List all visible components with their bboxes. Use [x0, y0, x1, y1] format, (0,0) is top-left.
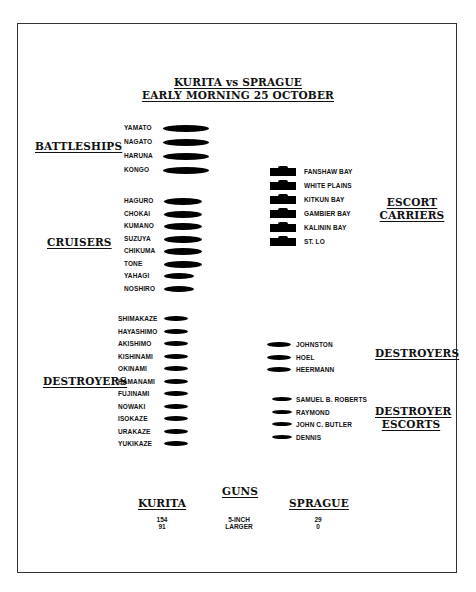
ship-name: YUKIKAZE	[118, 440, 152, 447]
ship-silhouette-icon	[164, 329, 188, 334]
ship-name: KUMANO	[124, 222, 154, 229]
ship-name: NOWAKI	[118, 403, 145, 410]
ship-name: NOSHIRO	[124, 285, 155, 292]
title-line-1: KURITA vs SPRAGUE	[0, 76, 476, 88]
ship-name: CHIKUMA	[124, 247, 155, 254]
ship-name: SUZUYA	[124, 235, 151, 242]
ship-silhouette-icon	[164, 286, 194, 292]
ship-silhouette-icon	[164, 404, 188, 409]
ship-silhouette-icon	[164, 316, 188, 321]
ship-name: AKISHIMO	[118, 340, 151, 347]
ship-name: WHITE PLAINS	[304, 182, 352, 189]
ship-name: ISOKAZE	[118, 415, 148, 422]
category-destroyer-escorts-line1: DESTROYER	[375, 405, 447, 418]
carrier-silhouette-icon	[270, 196, 296, 204]
ship-name: SAMUEL B. ROBERTS	[296, 396, 367, 403]
category-destroyer-escorts: DESTROYER ESCORTS	[375, 405, 447, 431]
ship-silhouette-icon	[272, 410, 292, 414]
guns-type-larger: LARGER	[214, 523, 264, 531]
ship-name: JOHN C. BUTLER	[296, 421, 352, 428]
ship-silhouette-icon	[164, 198, 202, 205]
ship-name: SHIMAKAZE	[118, 315, 158, 322]
ship-silhouette-icon	[164, 211, 202, 218]
ship-silhouette-icon	[164, 273, 194, 279]
ship-name: GAMBIER BAY	[304, 210, 351, 217]
ship-silhouette-icon	[164, 391, 188, 396]
category-destroyer-escorts-line2: ESCORTS	[375, 418, 447, 431]
ship-name: TONE	[124, 260, 142, 267]
ship-silhouette-icon	[164, 248, 202, 255]
guns-kurita-header: KURITA	[138, 497, 186, 510]
ship-silhouette-icon	[164, 441, 188, 446]
ship-silhouette-icon	[164, 223, 202, 230]
ship-silhouette-icon	[272, 422, 292, 426]
ship-name: HAYASHIMO	[118, 328, 157, 335]
ship-silhouette-icon	[164, 354, 188, 359]
category-destroyers-japanese: DESTROYERS	[43, 375, 127, 388]
ship-name: HARUNA	[124, 152, 153, 159]
title-line-2: EARLY MORNING 25 OCTOBER	[0, 89, 476, 101]
category-destroyers-american: DESTROYERS	[375, 347, 459, 360]
carrier-silhouette-icon	[270, 224, 296, 232]
ship-silhouette-icon	[267, 367, 291, 372]
guns-sprague-larger: 0	[293, 523, 343, 531]
ship-name: YAMATO	[124, 124, 152, 131]
ship-name: RAYMOND	[296, 409, 330, 416]
ship-silhouette-icon	[272, 435, 292, 439]
ship-silhouette-icon	[163, 167, 209, 174]
ship-name: KONGO	[124, 166, 149, 173]
ship-silhouette-icon	[163, 125, 209, 132]
category-escort-carriers: ESCORT CARRIERS	[378, 196, 446, 222]
ship-name: HAMANAMI	[118, 378, 155, 385]
ship-name: URAKAZE	[118, 428, 150, 435]
ship-name: YAHAGI	[124, 272, 149, 279]
ship-name: DENNIS	[296, 434, 321, 441]
ship-name: ST. LO	[304, 238, 325, 245]
category-cruisers: CRUISERS	[47, 236, 112, 249]
ship-name: KISHINAMI	[118, 353, 153, 360]
ship-silhouette-icon	[164, 416, 188, 421]
guns-sprague-header: SPRAGUE	[289, 497, 349, 510]
ship-name: NAGATO	[124, 138, 152, 145]
ship-silhouette-icon	[164, 429, 188, 434]
ship-silhouette-icon	[164, 341, 188, 346]
ship-name: FUJINAMI	[118, 390, 150, 397]
category-battleships: BATTLESHIPS	[35, 140, 122, 153]
category-escort-carriers-line1: ESCORT	[378, 196, 446, 209]
ship-name: HEERMANN	[296, 366, 334, 373]
carrier-silhouette-icon	[270, 182, 296, 190]
carrier-silhouette-icon	[270, 168, 296, 176]
ship-name: JOHNSTON	[296, 341, 333, 348]
ship-silhouette-icon	[163, 153, 209, 160]
ship-silhouette-icon	[267, 342, 291, 347]
ship-name: HAGURO	[124, 197, 154, 204]
ship-name: KITKUN BAY	[304, 196, 345, 203]
guns-heading: GUNS	[222, 485, 258, 498]
ship-silhouette-icon	[164, 236, 202, 243]
ship-name: KALININ BAY	[304, 224, 346, 231]
carrier-silhouette-icon	[270, 238, 296, 246]
category-escort-carriers-line2: CARRIERS	[378, 209, 446, 222]
ship-silhouette-icon	[164, 379, 188, 384]
guns-kurita-larger: 91	[137, 523, 187, 531]
ship-name: CHOKAI	[124, 210, 150, 217]
ship-silhouette-icon	[164, 261, 202, 268]
ship-name: OKINAMI	[118, 365, 147, 372]
ship-silhouette-icon	[272, 397, 292, 401]
ship-silhouette-icon	[164, 366, 188, 371]
carrier-silhouette-icon	[270, 210, 296, 218]
ship-name: HOEL	[296, 354, 314, 361]
ship-silhouette-icon	[267, 355, 291, 360]
ship-name: FANSHAW BAY	[304, 168, 353, 175]
ship-silhouette-icon	[163, 139, 209, 146]
